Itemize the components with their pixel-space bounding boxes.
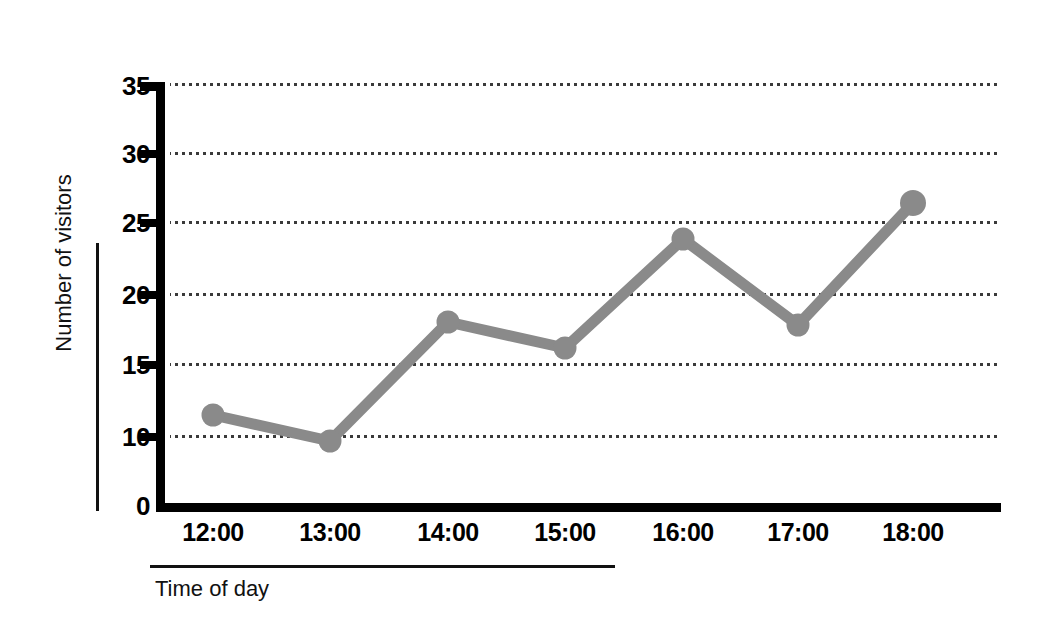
x-axis-title-rule <box>150 565 615 568</box>
y-axis-title: Number of visitors <box>53 133 75 393</box>
x-axis-tick-labels: 12:00 13:00 14:00 15:00 16:00 17:00 18:0… <box>0 519 1054 555</box>
x-tick-label-1400: 14:00 <box>388 519 508 547</box>
y-tick-label-10: 10 <box>106 424 150 450</box>
visitors-line-chart: 35 30 25 20 15 10 0 12:00 13:00 14:00 15… <box>0 0 1054 620</box>
y-tick-label-20: 20 <box>106 282 150 308</box>
x-tick-label-1300: 13:00 <box>270 519 390 547</box>
x-tick-label-1600: 16:00 <box>623 519 743 547</box>
data-series-number-of-visitors <box>202 190 927 453</box>
y-tick-label-0: 0 <box>106 493 150 519</box>
axis-spines <box>140 82 1001 512</box>
y-tick-label-25: 25 <box>106 210 150 236</box>
y-axis-title-container: Number of visitors <box>53 133 83 393</box>
y-tick-label-35: 35 <box>106 73 150 99</box>
y-tick-label-30: 30 <box>106 141 150 167</box>
x-axis-title: Time of day <box>155 578 269 600</box>
x-tick-label-1800: 18:00 <box>853 519 973 547</box>
y-axis-title-rule <box>96 243 99 511</box>
gridlines <box>170 83 1000 438</box>
x-tick-label-1700: 17:00 <box>738 519 858 547</box>
y-tick-label-15: 15 <box>106 352 150 378</box>
x-tick-label-1200: 12:00 <box>153 519 273 547</box>
x-tick-label-1500: 15:00 <box>505 519 625 547</box>
